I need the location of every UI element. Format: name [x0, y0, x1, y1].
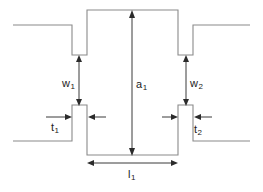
dimension-label-t2-sub: 2 [197, 128, 202, 137]
dimension-t2-arrowhead-left [171, 114, 178, 120]
dimension-w2-arrowhead-top [183, 55, 189, 62]
dimension-t1-arrowhead-right [88, 114, 95, 120]
dimension-label-w1-base: w [62, 77, 70, 89]
cross-section-drawing [0, 0, 263, 192]
dimension-l1 [87, 160, 178, 166]
dimension-label-w2-sub: 2 [198, 82, 203, 91]
dimension-a1-arrowhead-top [129, 10, 135, 18]
dimension-label-w1-sub: 1 [70, 82, 75, 91]
dimension-label-l1-sub: 1 [130, 173, 135, 182]
dimension-label-a1: a1 [136, 79, 147, 90]
dimension-label-w1: w1 [62, 78, 75, 89]
dimension-label-l1: l1 [128, 169, 135, 180]
dimension-label-t1: t1 [51, 122, 59, 133]
dimension-a1 [129, 10, 135, 156]
dimension-w2 [183, 55, 189, 106]
dimension-w1 [76, 55, 82, 106]
dimension-label-w2: w2 [190, 78, 203, 89]
diagram-canvas: w1 a1 w2 t1 t2 l1 [0, 0, 263, 192]
dimension-label-t2: t2 [194, 124, 202, 135]
dimension-label-t1-sub: 1 [54, 126, 59, 135]
dimension-w1-arrowhead-top [76, 55, 82, 62]
dimension-t1 [46, 114, 106, 120]
dimension-t1-arrowhead-left [65, 114, 72, 120]
dimension-label-a1-sub: 1 [142, 83, 147, 92]
dimension-t2 [162, 114, 212, 120]
dimension-l1-arrowhead-left [87, 160, 94, 166]
dimension-t2-arrowhead-right [194, 114, 201, 120]
dimension-l1-arrowhead-right [171, 160, 178, 166]
dimension-label-w2-base: w [190, 77, 198, 89]
